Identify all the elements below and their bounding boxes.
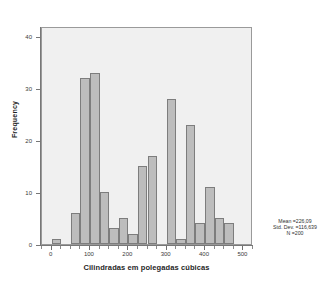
y-axis-tick-label: 0 bbox=[2, 242, 32, 248]
y-axis-tick bbox=[36, 37, 41, 38]
histogram-bar bbox=[205, 187, 215, 244]
x-axis-tick bbox=[127, 246, 128, 250]
x-axis-tick bbox=[79, 246, 80, 249]
x-axis-tick bbox=[147, 246, 148, 249]
plot-area bbox=[41, 27, 252, 245]
histogram-bar bbox=[138, 166, 148, 244]
histogram-bar bbox=[148, 156, 158, 244]
x-axis-tick-label: 300 bbox=[154, 251, 178, 258]
x-axis-tick bbox=[166, 246, 167, 250]
histogram-bar bbox=[195, 223, 205, 244]
histogram-bar bbox=[100, 192, 110, 244]
y-axis-tick bbox=[36, 89, 41, 90]
stat-n: N =200 bbox=[262, 230, 328, 236]
histogram-bar bbox=[109, 228, 119, 244]
y-axis-tick bbox=[36, 193, 41, 194]
y-axis-title: Frequency bbox=[11, 85, 18, 155]
x-axis-tick-label: 0 bbox=[39, 251, 63, 258]
x-axis-tick bbox=[194, 246, 195, 249]
x-axis-tick bbox=[108, 246, 109, 249]
x-axis-tick bbox=[89, 246, 90, 250]
x-axis-title: Cilindradas em polegadas cúbicas bbox=[41, 263, 252, 272]
x-axis-tick bbox=[242, 246, 243, 250]
histogram-bar bbox=[215, 218, 225, 244]
histogram-bar bbox=[128, 234, 138, 244]
histogram-bar bbox=[80, 78, 90, 244]
x-axis-tick-label: 100 bbox=[77, 251, 101, 258]
histogram-bars bbox=[42, 28, 251, 244]
y-axis-tick-label: 40 bbox=[2, 34, 32, 40]
x-axis-tick bbox=[137, 246, 138, 249]
x-axis-tick bbox=[60, 246, 61, 249]
histogram-bar bbox=[186, 125, 196, 244]
x-axis-tick bbox=[223, 246, 224, 249]
y-axis-line bbox=[40, 27, 41, 246]
histogram-figure: 010203040 Frequency 0100200300400500 Cil… bbox=[0, 0, 330, 289]
x-axis-tick bbox=[233, 246, 234, 249]
x-axis-tick bbox=[175, 246, 176, 249]
x-axis-tick bbox=[41, 246, 42, 249]
histogram-bar bbox=[119, 218, 129, 244]
x-axis-tick bbox=[214, 246, 215, 249]
histogram-bar bbox=[167, 99, 177, 244]
x-axis-tick bbox=[51, 246, 52, 250]
histogram-bar bbox=[224, 223, 234, 244]
x-axis-tick bbox=[204, 246, 205, 250]
histogram-bar bbox=[176, 239, 186, 244]
x-axis-tick-label: 400 bbox=[192, 251, 216, 258]
histogram-bar bbox=[52, 239, 62, 244]
x-axis-tick bbox=[252, 246, 253, 249]
statistics-annotation: Mean =226,09 Std. Dev. =116,639 N =200 bbox=[262, 218, 328, 237]
y-axis-tick-label: 10 bbox=[2, 190, 32, 196]
x-axis-tick bbox=[99, 246, 100, 249]
x-axis-tick-label: 500 bbox=[230, 251, 254, 258]
x-axis-tick bbox=[70, 246, 71, 249]
x-axis-tick-label: 200 bbox=[115, 251, 139, 258]
x-axis-tick bbox=[185, 246, 186, 249]
x-axis-tick bbox=[156, 246, 157, 249]
histogram-bar bbox=[71, 213, 81, 244]
x-axis-tick bbox=[118, 246, 119, 249]
y-axis-tick bbox=[36, 141, 41, 142]
histogram-bar bbox=[90, 73, 100, 244]
